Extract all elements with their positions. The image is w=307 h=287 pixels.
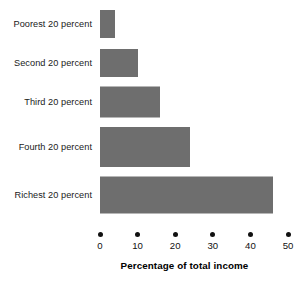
bar-fourth-20-percent: [100, 127, 190, 167]
bar-richest-20-percent: [100, 176, 273, 213]
tick-dot-icon: [173, 232, 178, 237]
x-axis-title: Percentage of total income: [0, 260, 307, 271]
category-label: Fourth 20 percent: [0, 142, 92, 152]
x-tick-label: 50: [274, 240, 302, 251]
category-label: Richest 20 percent: [0, 190, 92, 200]
bar-second-20-percent: [100, 49, 138, 77]
x-tick-label: 20: [161, 240, 189, 251]
bar-row: Third 20 percent: [0, 82, 307, 121]
bar-third-20-percent: [100, 86, 160, 117]
x-tick-label: 30: [199, 240, 227, 251]
bar-row: Richest 20 percent: [0, 175, 307, 214]
category-label: Third 20 percent: [0, 97, 92, 107]
x-tick-label: 40: [236, 240, 264, 251]
tick-dot-icon: [210, 232, 215, 237]
tick-dot-icon: [98, 232, 103, 237]
category-label: Poorest 20 percent: [0, 19, 92, 29]
tick-dot-icon: [248, 232, 253, 237]
bar-poorest-20-percent: [100, 10, 115, 38]
bar-chart: Poorest 20 percent Second 20 percent Thi…: [0, 0, 307, 287]
bar-row: Second 20 percent: [0, 43, 307, 82]
bar-row: Fourth 20 percent: [0, 127, 307, 166]
plot-area: Poorest 20 percent Second 20 percent Thi…: [0, 0, 307, 240]
bar-row: Poorest 20 percent: [0, 4, 307, 43]
tick-dot-icon: [135, 232, 140, 237]
category-label: Second 20 percent: [0, 58, 92, 68]
tick-dot-icon: [286, 232, 291, 237]
x-tick-label: 0: [86, 240, 114, 251]
x-axis-title-text: Percentage of total income: [59, 260, 249, 271]
x-tick-label: 10: [124, 240, 152, 251]
